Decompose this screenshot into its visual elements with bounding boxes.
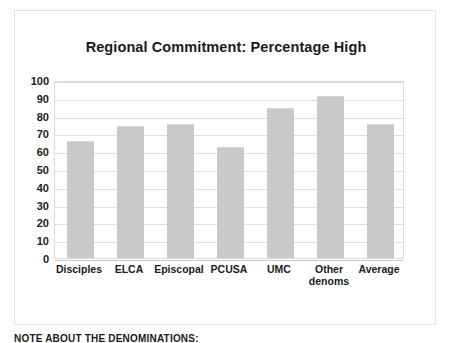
gridline-100 xyxy=(55,82,403,83)
x-tick-label-average: Average xyxy=(354,263,404,275)
x-tick-label-line: Other xyxy=(304,263,354,275)
x-tick-label-line: Average xyxy=(354,263,404,275)
plot-area xyxy=(54,81,404,259)
y-tick-label-40: 40 xyxy=(15,183,49,194)
x-tick-label-line: Disciples xyxy=(54,263,104,275)
gridline-90 xyxy=(55,100,403,101)
x-tick-label-pcusa: PCUSA xyxy=(204,263,254,275)
x-tick-label-elca: ELCA xyxy=(104,263,154,275)
chart-title: Regional Commitment: Percentage High xyxy=(15,39,437,55)
y-tick-label-60: 60 xyxy=(15,147,49,158)
x-tick-label-other-denoms: Otherdenoms xyxy=(304,263,354,287)
y-tick-label-70: 70 xyxy=(15,129,49,140)
x-tick-label-line: ELCA xyxy=(104,263,154,275)
gridline-80 xyxy=(55,118,403,119)
bar-pcusa xyxy=(217,147,244,258)
x-axis: DisciplesELCAEpiscopalPCUSAUMCOtherdenom… xyxy=(54,263,404,303)
document-page-frame: Regional Commitment: Percentage High 100… xyxy=(14,10,436,325)
y-axis: 1009080706050403020100 xyxy=(15,81,49,259)
x-tick-label-line: PCUSA xyxy=(204,263,254,275)
x-tick-label-umc: UMC xyxy=(254,263,304,275)
footer-note-text: NOTE ABOUT THE DENOMINATIONS: xyxy=(14,333,434,343)
bar-other-denoms xyxy=(317,96,344,258)
bar-elca xyxy=(117,126,144,258)
y-tick-label-50: 50 xyxy=(15,165,49,176)
x-tick-label-line: UMC xyxy=(254,263,304,275)
bar-average xyxy=(367,124,394,258)
y-tick-label-20: 20 xyxy=(15,218,49,229)
bar-umc xyxy=(267,108,294,258)
x-tick-label-episcopal: Episcopal xyxy=(154,263,204,275)
bar-episcopal xyxy=(167,124,194,258)
gridline-0 xyxy=(55,260,403,261)
y-tick-label-90: 90 xyxy=(15,94,49,105)
x-tick-label-disciples: Disciples xyxy=(54,263,104,275)
gridline-70 xyxy=(55,135,403,136)
y-tick-label-0: 0 xyxy=(15,254,49,265)
x-tick-label-line: Episcopal xyxy=(154,263,204,275)
y-tick-label-10: 10 xyxy=(15,236,49,247)
x-tick-label-line: denoms xyxy=(304,275,354,287)
y-tick-label-100: 100 xyxy=(15,76,49,87)
bar-chart-figure: Regional Commitment: Percentage High 100… xyxy=(15,11,437,326)
y-tick-label-30: 30 xyxy=(15,201,49,212)
y-tick-label-80: 80 xyxy=(15,112,49,123)
bar-disciples xyxy=(67,141,94,258)
